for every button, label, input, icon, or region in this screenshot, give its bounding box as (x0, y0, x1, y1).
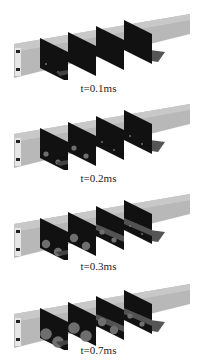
caption-t-0-7ms: t=0.7ms (0, 344, 197, 356)
panel-t-0-1ms (0, 0, 197, 90)
channel-render (0, 270, 197, 350)
panel-t-0-2ms (0, 90, 197, 180)
channel-render (0, 90, 197, 170)
panel-t-0-3ms (0, 180, 197, 270)
channel-render (0, 0, 197, 80)
channel-render (0, 180, 197, 260)
